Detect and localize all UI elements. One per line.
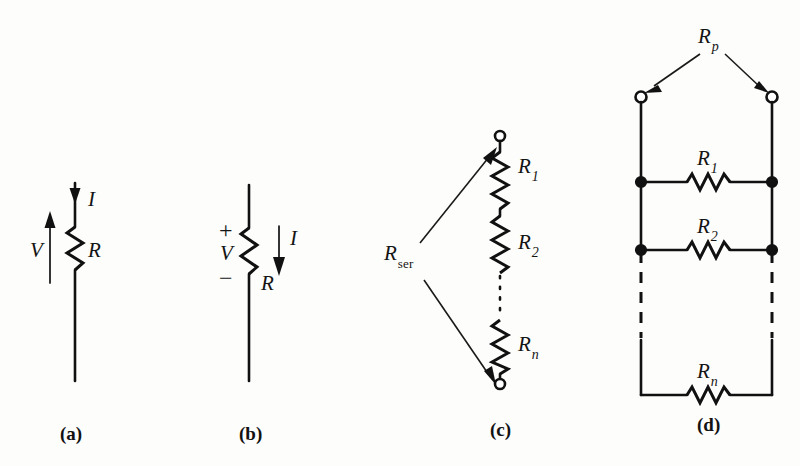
panel-d-resistor-1-label: R1 xyxy=(697,148,717,172)
panel-d-resistor-2-symbol xyxy=(687,242,730,258)
panel-d-resistor-2-label: R2 xyxy=(697,216,717,240)
panel-b-voltage-label: V xyxy=(220,243,233,264)
panel-b-current-label: I xyxy=(290,228,297,249)
panel-d-junction-right-1 xyxy=(767,177,777,187)
panel-c-resistor-2-symbol xyxy=(492,216,508,273)
panel-d-resistor-1-symbol xyxy=(687,174,730,190)
panel-b-current-arrowhead xyxy=(273,257,285,276)
panel-a-resistor-symbol xyxy=(67,227,83,270)
panel-c-equivalent-label: Rser xyxy=(384,243,413,266)
panel-c-caption: (c) xyxy=(490,420,511,439)
panel-a-current-arrowhead xyxy=(70,188,81,204)
panel-c-resistor-n-subscript: n xyxy=(532,347,539,362)
panel-d-leader-left-arrowhead xyxy=(644,85,662,93)
panel-d-equivalent-label: Rp xyxy=(698,26,718,50)
panel-c-resistor-2-subscript: 2 xyxy=(532,245,539,260)
panel-d-junction-left-2 xyxy=(636,245,646,255)
panel-d-resistor-2-symbol: R xyxy=(697,214,710,238)
panel-a-circuit xyxy=(45,183,84,381)
panel-c-leader-top xyxy=(420,157,489,243)
panel-d-leader-left xyxy=(654,54,700,86)
panel-d-equivalent-symbol: R xyxy=(698,24,711,48)
panel-d-resistor-2-subscript: 2 xyxy=(711,229,718,244)
panel-b-plus-sign: + xyxy=(219,218,233,242)
panel-b-caption: (b) xyxy=(239,424,262,443)
panel-c-resistor-2-label: R2 xyxy=(518,232,538,256)
panel-d-resistor-1-subscript: 1 xyxy=(711,161,718,176)
panel-b-minus-sign: − xyxy=(219,266,233,290)
panel-a-current-label: I xyxy=(88,189,95,210)
panel-c-top-terminal xyxy=(495,131,505,141)
panel-c-leader-bottom xyxy=(424,280,489,375)
panel-b-resistor-label: R xyxy=(261,273,274,294)
figure-root: V I R + V − I R Rser R1 R2 Rn Rp R1 R2 R… xyxy=(0,0,800,466)
panel-a-resistor-label: R xyxy=(88,240,101,261)
panel-d-resistor-n-label: Rn xyxy=(697,361,717,385)
panel-c-resistor-1-symbol xyxy=(492,152,508,209)
panel-c-resistor-n-symbol xyxy=(492,320,508,374)
panel-c-resistor-1-symbol: R xyxy=(518,154,531,178)
panel-c-leader-bottom-arrowhead xyxy=(484,366,496,385)
panel-a-voltage-arrowhead xyxy=(45,211,56,228)
panel-d-junction-right-2 xyxy=(767,245,777,255)
panel-a-caption: (a) xyxy=(60,424,82,443)
panel-d-resistor-n-subscript: n xyxy=(711,374,718,389)
panel-c-resistor-1-label: R1 xyxy=(518,156,538,180)
panel-d-resistor-n-symbol: R xyxy=(697,359,710,383)
panel-c-bottom-terminal xyxy=(495,379,505,389)
panel-c-resistor-2-symbol: R xyxy=(518,230,531,254)
panel-d-leader-right xyxy=(725,54,759,86)
panel-a-voltage-label: V xyxy=(30,240,43,261)
circuit-drawing-layer xyxy=(0,0,800,466)
panel-c-equivalent-symbol: R xyxy=(384,241,397,265)
panel-d-resistor-1-symbol: R xyxy=(697,146,710,170)
panel-b-resistor-symbol xyxy=(241,228,257,274)
panel-c-resistor-n-label: Rn xyxy=(518,334,538,358)
panel-c-resistor-n-symbol: R xyxy=(518,332,531,356)
panel-c-equivalent-subscript: ser xyxy=(398,256,414,271)
panel-d-junction-left-1 xyxy=(636,177,646,187)
panel-d-resistor-n-symbol xyxy=(687,387,730,403)
panel-d-caption: (d) xyxy=(697,415,720,434)
panel-d-equivalent-subscript: p xyxy=(712,39,719,54)
panel-c-resistor-1-subscript: 1 xyxy=(532,169,539,184)
panel-c-circuit xyxy=(420,131,508,389)
